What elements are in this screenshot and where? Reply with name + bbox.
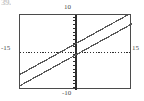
- graphing-calculator-screenshot: 39.: [0, 0, 144, 101]
- window-label-ymin: -10: [62, 90, 71, 97]
- window-label-xmin: -15: [1, 45, 10, 52]
- plot-frame: [19, 14, 131, 89]
- window-label-xmax: 15: [132, 45, 139, 52]
- cropped-header-artifact: 39.: [1, 0, 11, 6]
- plot-canvas: [20, 15, 132, 90]
- window-label-ymax: 10: [64, 4, 71, 11]
